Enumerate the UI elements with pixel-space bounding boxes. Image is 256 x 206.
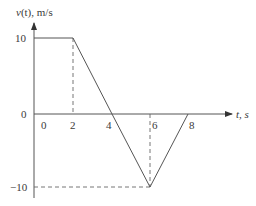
- y-tick-10: 10: [15, 32, 27, 44]
- y-tick-neg10: −10: [10, 181, 28, 193]
- x-tick-2: 2: [70, 119, 76, 131]
- y-tick-0: 0: [21, 108, 27, 120]
- velocity-chart: v(t), m/s 10 0 −10 0 2 4 6 8 t, s: [0, 0, 256, 206]
- x-tick-6: 6: [152, 119, 158, 131]
- x-axis-label: t, s: [236, 108, 249, 120]
- y-axis-label: v(t), m/s: [16, 6, 53, 19]
- velocity-curve: [34, 38, 188, 187]
- x-tick-8: 8: [189, 119, 195, 131]
- x-tick-4: 4: [106, 119, 112, 131]
- x-tick-0: 0: [41, 119, 47, 131]
- chart-canvas: v(t), m/s 10 0 −10 0 2 4 6 8 t, s: [0, 0, 256, 206]
